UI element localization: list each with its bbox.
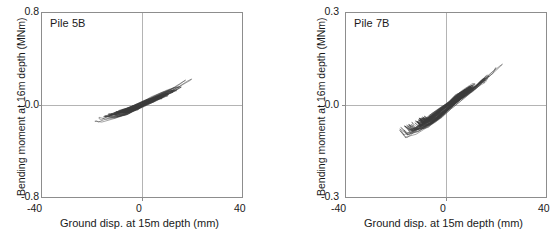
y-axis-tick-min: -0.8 xyxy=(21,191,39,202)
y-axis-tick-mid: 0.0 xyxy=(24,99,39,110)
panel-title: Pile 7B xyxy=(354,17,390,29)
x-axis-tick-max: 40 xyxy=(234,202,246,214)
y-axis-tick-max: 0.8 xyxy=(24,6,39,17)
x-axis-tickmark xyxy=(142,197,143,201)
hysteresis-figure: Bending moment at 16m depth (MNm) 0.8 0.… xyxy=(0,0,557,237)
y-axis-tick-mid: 0.0 xyxy=(324,99,339,110)
y-axis-tick-min: -0.3 xyxy=(321,191,339,202)
x-axis-title: Ground disp. at 15m depth (mm) xyxy=(364,217,523,229)
plot-area xyxy=(41,12,243,198)
x-axis-tick-min: -40 xyxy=(331,202,346,214)
hysteresis-loop-series xyxy=(346,13,546,197)
x-axis-tick-min: -40 xyxy=(27,202,42,214)
plot-area xyxy=(345,12,547,198)
x-axis-tick-mid: 0 xyxy=(136,202,142,214)
x-axis-tick-max: 40 xyxy=(538,202,550,214)
y-axis-tick-max: 0.3 xyxy=(324,6,339,17)
panel-title: Pile 5B xyxy=(50,17,86,29)
x-axis-tickmark xyxy=(446,197,447,201)
chart-panel-pile-5b: Bending moment at 16m depth (MNm) 0.8 0.… xyxy=(0,0,278,237)
x-axis-tick-mid: 0 xyxy=(440,202,446,214)
x-axis-title: Ground disp. at 15m depth (mm) xyxy=(60,217,219,229)
chart-panel-pile-7b: Bending moment at 16m depth (MNm) 0.3 0.… xyxy=(278,0,557,237)
hysteresis-loop-series xyxy=(42,13,242,197)
